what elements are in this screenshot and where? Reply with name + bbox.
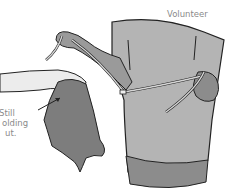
volunteer-rope-illustration [0, 0, 236, 196]
caption-line-3: ut. [0, 128, 39, 138]
handkerchief [44, 79, 105, 172]
caption-line-2: olding [0, 118, 39, 128]
caption-line-1: Still [0, 108, 39, 118]
caption-text: Still olding ut. [0, 108, 39, 138]
volunteer-shirt [112, 20, 224, 188]
volunteer-label: Volunteer [167, 9, 208, 19]
illustration-scene: Volunteer Still olding ut. [0, 0, 236, 196]
